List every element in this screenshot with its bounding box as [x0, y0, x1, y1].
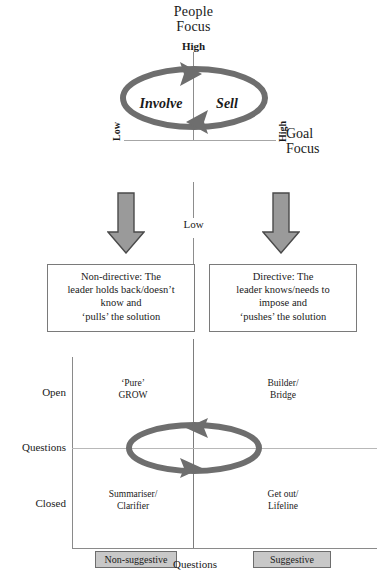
quadrant-getout-line2: Lifeline [228, 501, 338, 513]
y-tick-questions: Questions [2, 441, 66, 454]
top-horizontal-axis-line [124, 140, 276, 141]
non-directive-line-3: know and [52, 296, 190, 309]
directive-line-4: ‘pushes’ the solution [214, 310, 352, 323]
diagram-canvas: People Focus High Low High Goal Focus In… [0, 0, 387, 585]
people-focus-low-label: Low [0, 218, 387, 231]
cycle-label-involve: Involve [126, 96, 196, 112]
bottom-y-axis-line [72, 357, 73, 549]
goal-focus-title-line2: Focus [286, 141, 319, 156]
goal-focus-axis-title: Goal Focus [286, 126, 319, 156]
quadrant-summariser-line1: Summariser/ [78, 489, 188, 501]
y-tick-closed: Closed [2, 497, 66, 510]
mid-vertical-line-lower [193, 238, 194, 264]
quadrant-label-pure-grow: ‘Pure’ GROW [78, 378, 188, 401]
directive-line-2: leader knows/needs to [214, 283, 352, 296]
cycle-label-sell: Sell [196, 96, 258, 112]
directive-description-box: Directive: The leader knows/needs to imp… [209, 264, 357, 332]
people-focus-axis-title: People Focus [0, 4, 387, 34]
goal-focus-title-line1: Goal [286, 126, 319, 141]
y-tick-open: Open [2, 386, 66, 399]
non-directive-line-2: leader holds back/doesn’t [52, 283, 190, 296]
quadrant-pure-grow-line2: GROW [78, 390, 188, 402]
directive-line-3: impose and [214, 296, 352, 309]
quadrant-getout-line1: Get out/ [228, 489, 338, 501]
quadrant-summariser-line2: Clarifier [78, 501, 188, 513]
quadrant-builder-bridge-line1: Builder/ [228, 378, 338, 390]
quadrant-pure-grow-line1: ‘Pure’ [78, 378, 188, 390]
non-directive-line-4: ‘pulls’ the solution [52, 310, 190, 323]
bottom-x-axis-line [72, 548, 377, 549]
directive-line-1: Directive: The [214, 270, 352, 283]
quadrant-builder-bridge-line2: Bridge [228, 390, 338, 402]
people-focus-title-line2: Focus [0, 19, 387, 34]
x-axis-caption-questions: Questions [160, 558, 230, 571]
right-down-arrow-icon [262, 192, 300, 254]
quadrant-label-get-out-lifeline: Get out/ Lifeline [228, 489, 338, 512]
quadrant-label-builder-bridge: Builder/ Bridge [228, 378, 338, 401]
non-directive-line-1: Non-directive: The [52, 270, 190, 283]
badge-suggestive: Suggestive [253, 551, 331, 568]
non-directive-description-box: Non-directive: The leader holds back/doe… [47, 264, 195, 332]
questions-cycle-icon [124, 418, 264, 478]
left-down-arrow-icon [107, 192, 145, 254]
mid-vertical-line-upper [193, 182, 194, 218]
quadrant-label-summariser-clarifier: Summariser/ Clarifier [78, 489, 188, 512]
people-focus-title-line1: People [0, 4, 387, 19]
